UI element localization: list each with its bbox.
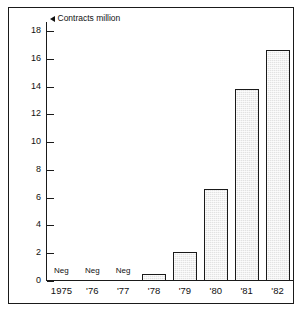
y-axis-tick-label-6: 6 bbox=[0, 193, 41, 202]
y-axis-tick-label-4: 4 bbox=[0, 220, 41, 229]
x-axis-label-82: '82 bbox=[258, 285, 298, 296]
chart-figure: Contracts million 024681012141618 NegNeg… bbox=[0, 0, 303, 319]
y-axis-tick-label-8: 8 bbox=[0, 165, 41, 174]
y-axis-ticks: 024681012141618 bbox=[0, 0, 46, 319]
neg-labels-group: NegNegNeg bbox=[46, 266, 295, 280]
bar-81 bbox=[235, 89, 259, 281]
chart-title: Contracts million bbox=[50, 13, 120, 23]
bar-82 bbox=[266, 50, 290, 281]
bars-group bbox=[46, 31, 295, 281]
y-axis-tick-label-16: 16 bbox=[0, 54, 41, 63]
y-axis-tick-label-12: 12 bbox=[0, 109, 41, 118]
y-axis-tick-label-10: 10 bbox=[0, 137, 41, 146]
left-caret-icon bbox=[50, 16, 55, 22]
y-axis-tick-label-2: 2 bbox=[0, 248, 41, 257]
y-axis-tick-label-14: 14 bbox=[0, 82, 41, 91]
chart-title-text: Contracts million bbox=[58, 13, 121, 23]
neg-label-77: Neg bbox=[105, 266, 141, 275]
x-axis-category-labels: 1975'76'77'78'79'80'81'82 bbox=[46, 281, 295, 305]
y-axis-tick-label-18: 18 bbox=[0, 26, 41, 35]
y-axis-tick-label-0: 0 bbox=[0, 276, 41, 285]
